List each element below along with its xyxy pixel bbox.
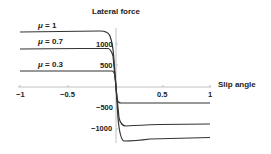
x-tick-label-05: 0.5 bbox=[157, 91, 167, 99]
x-tick-label-m1: −1 bbox=[16, 91, 25, 99]
mu-value: = 1 bbox=[43, 21, 57, 30]
label-mu-0.3: μ = 0.3 bbox=[38, 61, 63, 69]
mu-value: = 0.7 bbox=[43, 37, 63, 46]
y-axis-title: Lateral force bbox=[92, 8, 140, 16]
x-axis-title: Slip angle bbox=[218, 81, 256, 89]
y-tick-label-500: 500 bbox=[100, 62, 113, 70]
label-mu-1: μ = 1 bbox=[38, 22, 56, 30]
x-tick-label-1: 1 bbox=[208, 91, 212, 99]
mu-value: = 0.3 bbox=[43, 60, 63, 69]
label-mu-0.7: μ = 0.7 bbox=[38, 38, 63, 46]
y-tick-label-1000: 1000 bbox=[96, 41, 113, 49]
y-tick-label-m500: −500 bbox=[96, 104, 113, 112]
y-tick-label-m1000: −1000 bbox=[91, 125, 112, 133]
x-tick-label-m05: −0.5 bbox=[60, 91, 75, 99]
